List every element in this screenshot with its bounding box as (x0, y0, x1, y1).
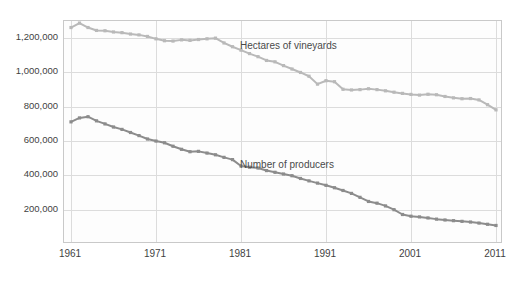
data-point-marker (197, 150, 200, 153)
data-point-marker (477, 221, 480, 224)
data-point-marker (120, 31, 123, 34)
data-point-marker (460, 97, 463, 100)
data-point-marker (324, 184, 327, 187)
data-point-marker (231, 45, 234, 48)
data-point-marker (418, 94, 421, 97)
data-point-marker (222, 156, 225, 159)
data-point-marker (401, 92, 404, 95)
data-point-marker (78, 21, 81, 24)
data-point-marker (86, 115, 89, 118)
data-point-marker (452, 96, 455, 99)
chart-container: 200,000400,000600,000800,0001,000,0001,2… (0, 0, 523, 281)
data-point-marker (103, 122, 106, 125)
data-point-marker (222, 41, 225, 44)
data-point-marker (112, 30, 115, 33)
y-axis-tick-label: 400,000 (0, 168, 58, 179)
data-point-marker (375, 202, 378, 205)
data-point-marker (409, 215, 412, 218)
data-point-marker (307, 179, 310, 182)
data-point-marker (426, 93, 429, 96)
data-point-marker (469, 97, 472, 100)
data-point-marker (231, 158, 234, 161)
data-point-marker (460, 220, 463, 223)
data-point-marker (120, 128, 123, 131)
data-point-marker (469, 220, 472, 223)
data-point-marker (435, 93, 438, 96)
data-point-marker (137, 134, 140, 137)
data-point-marker (409, 93, 412, 96)
series-lines (64, 21, 503, 244)
x-axis-tick-label: 2011 (484, 248, 506, 259)
data-point-marker (375, 88, 378, 91)
data-point-marker (69, 120, 72, 123)
series-label-vineyards: Hectares of vineyards (240, 40, 337, 51)
data-point-marker (273, 171, 276, 174)
data-point-marker (205, 151, 208, 154)
data-point-marker (95, 119, 98, 122)
data-point-marker (95, 29, 98, 32)
x-axis-tick-label: 1961 (59, 248, 81, 259)
y-axis-tick-label: 800,000 (0, 100, 58, 111)
y-axis-tick-label: 1,200,000 (0, 31, 58, 42)
series-line (71, 117, 496, 226)
data-point-marker (426, 216, 429, 219)
data-point-marker (324, 79, 327, 82)
data-point-marker (69, 26, 72, 29)
data-point-marker (367, 200, 370, 203)
data-point-marker (188, 39, 191, 42)
data-point-marker (265, 59, 268, 62)
data-point-marker (392, 91, 395, 94)
data-point-marker (112, 125, 115, 128)
data-point-marker (290, 174, 293, 177)
y-axis-tick-label: 600,000 (0, 134, 58, 145)
data-point-marker (486, 103, 489, 106)
x-axis-tick-label: 1991 (314, 248, 336, 259)
plot-area (63, 20, 502, 243)
data-point-marker (316, 83, 319, 86)
data-point-marker (282, 172, 285, 175)
data-point-marker (350, 88, 353, 91)
data-point-marker (163, 39, 166, 42)
data-point-marker (188, 150, 191, 153)
data-point-marker (290, 67, 293, 70)
data-point-marker (248, 52, 251, 55)
data-point-marker (307, 75, 310, 78)
data-point-marker (333, 80, 336, 83)
data-point-marker (256, 55, 259, 58)
series-label-producers: Number of producers (240, 159, 334, 170)
data-point-marker (435, 218, 438, 221)
data-point-marker (273, 60, 276, 63)
data-point-marker (214, 153, 217, 156)
data-point-marker (443, 218, 446, 221)
data-point-marker (358, 88, 361, 91)
data-point-marker (154, 139, 157, 142)
data-point-marker (146, 137, 149, 140)
data-point-marker (333, 186, 336, 189)
data-point-marker (477, 98, 480, 101)
data-point-marker (205, 37, 208, 40)
x-axis-tick-label: 2001 (399, 248, 421, 259)
data-point-marker (86, 26, 89, 29)
data-point-marker (358, 196, 361, 199)
data-point-marker (146, 35, 149, 38)
data-point-marker (129, 131, 132, 134)
data-point-marker (180, 148, 183, 151)
x-axis-tick-label: 1981 (229, 248, 251, 259)
x-axis-tick-label: 1971 (144, 248, 166, 259)
data-point-marker (418, 215, 421, 218)
data-point-marker (452, 219, 455, 222)
y-axis-tick-label: 200,000 (0, 203, 58, 214)
data-point-marker (316, 182, 319, 185)
data-point-marker (494, 108, 497, 111)
data-point-marker (486, 223, 489, 226)
data-point-marker (367, 87, 370, 90)
data-point-marker (299, 71, 302, 74)
data-point-marker (443, 95, 446, 98)
data-point-marker (282, 64, 285, 67)
data-point-marker (163, 141, 166, 144)
data-point-marker (350, 192, 353, 195)
data-point-marker (171, 39, 174, 42)
data-point-marker (154, 37, 157, 40)
data-point-marker (384, 204, 387, 207)
data-point-marker (180, 38, 183, 41)
